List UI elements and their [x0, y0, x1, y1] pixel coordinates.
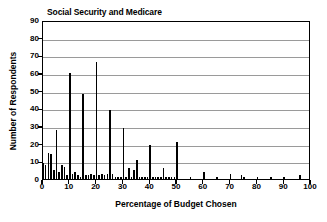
bar [72, 174, 74, 179]
bar [80, 177, 82, 179]
x-tick-label: 10 [64, 183, 73, 191]
bar [48, 153, 50, 180]
x-tick-label: 50 [172, 183, 181, 191]
bar [58, 172, 60, 179]
bar [125, 177, 127, 179]
bar [120, 177, 122, 179]
bar [104, 175, 106, 179]
bar [123, 128, 125, 179]
x-tick-mark [175, 180, 176, 184]
bar [112, 174, 114, 179]
bar [190, 177, 192, 179]
x-tick-mark [309, 180, 310, 184]
bar [115, 177, 117, 179]
bar [128, 168, 130, 179]
x-tick-label: 80 [252, 183, 261, 191]
bar [160, 177, 162, 179]
bar [241, 175, 243, 179]
x-tick-mark [41, 180, 42, 184]
bar [42, 163, 44, 179]
bar [141, 177, 143, 179]
bar [203, 172, 205, 179]
bar [168, 177, 170, 179]
bar [283, 177, 285, 179]
x-tick-label: 0 [40, 183, 44, 191]
x-tick-mark [256, 180, 257, 184]
bar [174, 177, 176, 179]
bar [66, 175, 68, 179]
x-tick-label: 90 [279, 183, 288, 191]
chart-title: Social Security and Medicare [47, 7, 162, 17]
bar [144, 177, 146, 179]
chart-figure: Social Security and Medicare 01020304050… [0, 0, 327, 222]
bar [53, 170, 55, 179]
bar [93, 175, 95, 179]
bar [139, 177, 141, 179]
y-axis-tick-labels: 0102030405060708090 [16, 0, 39, 222]
x-tick-label: 20 [91, 183, 100, 191]
bar [88, 175, 90, 179]
bar [136, 160, 138, 179]
bar [270, 177, 272, 179]
bar [165, 177, 167, 179]
y-tick-label: 90 [30, 17, 39, 25]
bar [61, 165, 63, 179]
bar [107, 174, 109, 179]
x-tick-label: 40 [145, 183, 154, 191]
bar [243, 177, 245, 179]
bar [45, 165, 47, 179]
gridline [43, 40, 309, 41]
bar [117, 177, 119, 179]
bar [230, 174, 232, 179]
bar [133, 170, 135, 179]
x-tick-mark [68, 180, 69, 184]
bar [101, 174, 103, 179]
bar [157, 177, 159, 179]
plot-area [42, 21, 310, 180]
bar [257, 177, 259, 179]
bar [171, 177, 173, 179]
y-axis-title: Number of Respondents [8, 31, 18, 171]
x-tick-mark [122, 180, 123, 184]
bar [77, 175, 79, 179]
bar [147, 177, 149, 179]
bar [64, 167, 66, 179]
x-tick-mark [229, 180, 230, 184]
bar [74, 172, 76, 179]
x-tick-label: 100 [303, 183, 316, 191]
bar [299, 175, 301, 179]
bar [131, 177, 133, 179]
x-axis-title: Percentage of Budget Chosen [42, 199, 310, 209]
bar [96, 62, 98, 179]
y-tick-label: 0 [35, 176, 39, 184]
gridline [43, 75, 309, 76]
bar [69, 73, 71, 179]
bar [163, 168, 165, 179]
bar [176, 142, 178, 179]
bar [155, 177, 157, 179]
x-tick-label: 60 [198, 183, 207, 191]
bar [149, 145, 151, 179]
bar [152, 177, 154, 179]
bar [90, 174, 92, 179]
x-tick-label: 70 [225, 183, 234, 191]
bar [56, 130, 58, 179]
bar [216, 177, 218, 179]
bar [82, 94, 84, 179]
bar [98, 175, 100, 179]
bar [109, 110, 111, 179]
bar [85, 175, 87, 179]
x-tick-mark [283, 180, 284, 184]
bar [50, 154, 52, 179]
x-tick-label: 30 [118, 183, 127, 191]
x-tick-mark [202, 180, 203, 184]
x-tick-mark [149, 180, 150, 184]
x-tick-mark [95, 180, 96, 184]
gridline [43, 57, 309, 58]
